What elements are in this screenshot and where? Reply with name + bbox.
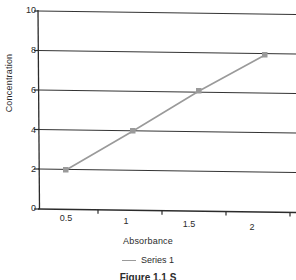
data-point-3 [262,52,268,58]
series-1-line [66,55,265,170]
data-point-0 [63,167,69,173]
y-tick-label-6: 6 [10,85,36,95]
y-tick-label-8: 8 [10,45,36,55]
data-point-2 [196,88,202,94]
gridline-8 [38,51,296,55]
chart-legend: Series 1 [0,255,296,265]
legend-label-series-1: Series 1 [141,255,174,265]
y-tick-label-2: 2 [10,164,36,174]
x-axis-line [38,209,296,213]
x-tick-label-2: 2 [237,222,267,232]
gridline-2 [38,169,296,173]
gridlines [38,11,296,173]
gridline-6 [38,90,296,94]
y-tick-label-4: 4 [10,125,36,135]
x-tick-label-1: 1 [111,216,141,226]
y-tick-label-10: 10 [10,5,36,15]
x-axis-title: Absorbance [0,236,296,246]
gridline-10 [38,11,296,15]
legend-line-swatch [122,260,136,261]
line-chart-figure: Concentration 0 2 4 6 8 10 0.5 1 1.5 2 [0,0,296,280]
x-tick-label-0-5: 0.5 [51,213,81,223]
y-tick-label-0: 0 [10,203,36,213]
y-axis-line [38,10,40,209]
data-point-1 [130,128,136,134]
x-tick-label-1-5: 1.5 [174,219,204,229]
figure-caption: Figure 1.1 S [0,272,296,280]
gridline-4 [38,130,296,134]
